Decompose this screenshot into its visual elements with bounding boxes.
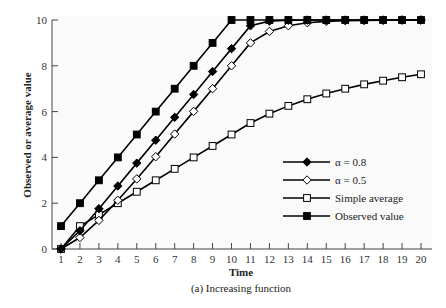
x-tick-label: 20 [416, 253, 428, 265]
y-tick-label: 0 [42, 243, 48, 255]
filled-square-marker [342, 17, 349, 24]
x-tick-label: 15 [321, 253, 333, 265]
open-square-marker [228, 131, 235, 138]
x-tick-label: 6 [153, 253, 159, 265]
open-square-marker [399, 74, 406, 81]
x-tick-label: 14 [302, 253, 314, 265]
filled-square-marker [247, 17, 254, 24]
filled-square-marker [304, 213, 311, 220]
filled-square-marker [418, 17, 425, 24]
figure-caption: (a) Increasing function [191, 282, 292, 295]
filled-square-marker [171, 85, 178, 92]
open-square-marker [361, 81, 368, 88]
filled-square-marker [228, 17, 235, 24]
y-tick-label: 6 [42, 106, 48, 118]
x-tick-label: 19 [397, 253, 409, 265]
x-tick-label: 9 [210, 253, 216, 265]
x-tick-label: 8 [191, 253, 197, 265]
filled-square-marker [190, 62, 197, 69]
filled-square-marker [380, 17, 387, 24]
filled-square-marker [209, 40, 216, 47]
x-tick-label: 5 [134, 253, 140, 265]
y-tick-label: 8 [42, 60, 48, 72]
x-tick-label: 1 [58, 253, 64, 265]
filled-square-marker [114, 154, 121, 161]
x-axis-title: Time [229, 266, 253, 278]
open-square-marker [304, 195, 311, 202]
open-square-marker [304, 96, 311, 103]
filled-square-marker [399, 17, 406, 24]
filled-square-marker [304, 17, 311, 24]
filled-square-marker [361, 17, 368, 24]
open-square-marker [418, 71, 425, 78]
x-tick-label: 16 [340, 253, 352, 265]
x-tick-label: 13 [283, 253, 295, 265]
y-tick-label: 10 [36, 14, 48, 26]
open-square-marker [152, 177, 159, 184]
open-square-marker [247, 120, 254, 127]
open-square-marker [285, 102, 292, 109]
legend-label: α = 0.8 [335, 156, 367, 168]
open-square-marker [342, 85, 349, 92]
x-tick-label: 17 [359, 253, 371, 265]
filled-square-marker [95, 177, 102, 184]
x-tick-label: 3 [96, 253, 102, 265]
legend-label: α = 0.5 [335, 174, 367, 186]
line-chart: 02468101234567891011121314151617181920 α… [0, 0, 446, 308]
filled-square-marker [152, 108, 159, 115]
open-square-marker [171, 165, 178, 172]
x-tick-label: 10 [226, 253, 238, 265]
x-tick-label: 2 [77, 253, 83, 265]
open-square-marker [133, 188, 140, 195]
open-square-marker [209, 143, 216, 150]
legend-label: Observed value [335, 210, 404, 222]
x-tick-label: 12 [264, 253, 275, 265]
filled-square-marker [133, 131, 140, 138]
x-tick-label: 11 [245, 253, 256, 265]
filled-square-marker [285, 17, 292, 24]
legend-label: Simple average [335, 192, 403, 204]
open-square-marker [323, 90, 330, 97]
x-tick-label: 7 [172, 253, 178, 265]
y-axis-title: Observed or average value [21, 72, 33, 197]
x-tick-label: 18 [378, 253, 390, 265]
open-square-marker [190, 154, 197, 161]
filled-square-marker [323, 17, 330, 24]
open-square-marker [266, 110, 273, 117]
filled-square-marker [58, 223, 65, 230]
filled-square-marker [77, 200, 84, 207]
open-square-marker [380, 77, 387, 84]
y-tick-label: 2 [42, 197, 48, 209]
x-tick-label: 4 [115, 253, 121, 265]
filled-square-marker [266, 17, 273, 24]
y-tick-label: 4 [42, 151, 48, 163]
